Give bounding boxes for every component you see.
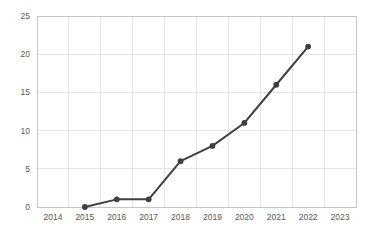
x-axis-tick-label: 2017 [139,212,158,222]
chart-background [0,0,378,238]
data-point-marker [210,143,216,149]
x-axis-tick-label: 2022 [299,212,318,222]
data-point-marker [178,158,184,164]
x-axis-tick-label: 2014 [43,212,62,222]
x-axis-tick-label: 2018 [171,212,190,222]
y-axis-tick-label: 25 [21,11,31,21]
y-axis-tick-label: 0 [25,202,30,212]
data-point-marker [146,196,152,202]
x-axis-tick-label: 2023 [331,212,350,222]
y-axis-tick-label: 5 [25,164,30,174]
line-chart: 0510152025 20142015201620172018201920202… [0,0,378,238]
chart-container: 0510152025 20142015201620172018201920202… [0,0,378,238]
x-axis-tick-label: 2019 [203,212,222,222]
x-axis-tick-label: 2015 [75,212,94,222]
x-axis-tick-label: 2021 [267,212,286,222]
x-axis-tick-label: 2020 [235,212,254,222]
x-axis-tick-label: 2016 [107,212,126,222]
y-axis-tick-label: 15 [21,87,31,97]
data-point-marker [305,44,311,50]
data-point-marker [273,82,279,88]
data-point-marker [241,120,247,126]
data-point-marker [114,196,120,202]
y-axis-tick-label: 10 [21,126,31,136]
data-point-marker [82,204,88,210]
y-axis-tick-label: 20 [21,49,31,59]
